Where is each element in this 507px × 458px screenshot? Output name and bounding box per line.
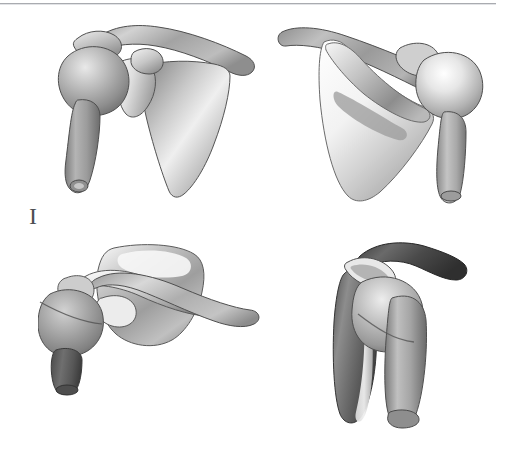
humerus-shaft-shape [385, 296, 427, 426]
humerus-distal-cut [441, 191, 461, 201]
figure-page: I [0, 0, 507, 458]
figure-top-rule-shadow [0, 4, 496, 5]
humerus-distal-cut [388, 410, 419, 428]
humerus-medullary-cavity [74, 183, 84, 189]
humerus-shaft-shape [65, 100, 100, 193]
shoulder-lateral-view [318, 236, 486, 436]
coracoid-process-shape [131, 49, 163, 74]
humerus-distal-cut [56, 385, 78, 395]
shoulder-anterior-view [38, 14, 266, 210]
humeral-head-shape [416, 52, 483, 118]
shoulder-superior-view [38, 240, 274, 412]
humerus-shaft-shape [437, 112, 466, 203]
shoulder-posterior-view [272, 14, 498, 210]
